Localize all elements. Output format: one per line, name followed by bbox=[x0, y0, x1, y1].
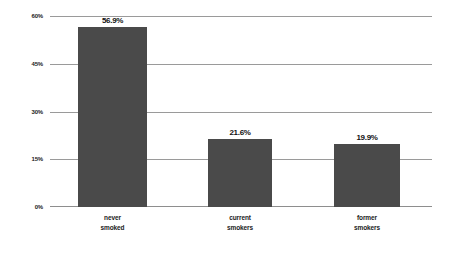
y-tick-label-30: 30% bbox=[32, 109, 43, 115]
x-category-label-former-smokers: former smokers bbox=[334, 213, 400, 233]
bar-value-never-smoked: 56.9% bbox=[102, 16, 123, 25]
x-category-label-current-smokers: current smokers bbox=[208, 213, 272, 233]
x-category-label-never-smoked: never smoked bbox=[78, 213, 147, 233]
bar-value-former-smokers: 19.9% bbox=[356, 133, 377, 142]
y-tick-label-15: 15% bbox=[32, 156, 43, 162]
bar-group-current-smokers[interactable]: 21.6% bbox=[208, 16, 272, 207]
y-tick-label-0: 0% bbox=[35, 204, 43, 210]
bar-group-former-smokers[interactable]: 19.9% bbox=[334, 16, 400, 207]
bar-group-never-smoked[interactable]: 56.9% bbox=[78, 16, 147, 207]
x-category-line-2: smokers bbox=[208, 223, 272, 233]
bar-former-smokers[interactable] bbox=[334, 144, 400, 207]
bar-never-smoked[interactable] bbox=[78, 27, 147, 207]
y-tick-label-60: 60% bbox=[32, 13, 43, 19]
x-category-line-2: smoked bbox=[78, 223, 147, 233]
x-category-line-1: former bbox=[357, 214, 377, 221]
x-axis: never smoked current smokers former smok… bbox=[50, 213, 432, 259]
y-axis: 60% 45% 30% 15% 0% bbox=[0, 0, 50, 259]
x-category-line-2: smokers bbox=[334, 223, 400, 233]
bar-current-smokers[interactable] bbox=[208, 139, 272, 207]
plot-area: 56.9% 21.6% 19.9% bbox=[50, 16, 432, 207]
bar-chart: 60% 45% 30% 15% 0% 56.9% 21.6% 19.9% nev… bbox=[0, 0, 456, 259]
x-category-line-1: never bbox=[104, 214, 121, 221]
bar-value-current-smokers: 21.6% bbox=[229, 128, 250, 137]
x-category-line-1: current bbox=[229, 214, 251, 221]
y-tick-label-45: 45% bbox=[32, 61, 43, 67]
